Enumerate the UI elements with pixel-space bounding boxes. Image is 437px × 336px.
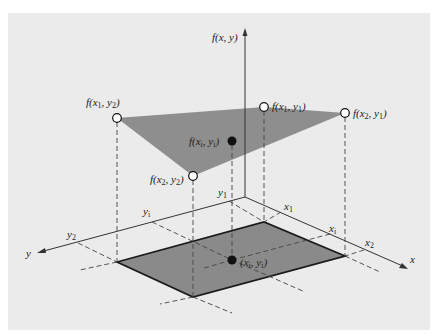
label-f-x1-y2: f(x1, y2) [86, 96, 120, 110]
point-f-xi-yi [228, 137, 237, 146]
label-f-x2-y2: f(x2, y2) [150, 173, 184, 187]
z-axis-label: f(x, y) [212, 31, 238, 44]
x-arrow-icon [399, 263, 408, 269]
point-f-x2-y2 [189, 172, 198, 181]
tick-xi: xi [328, 222, 337, 236]
tick-x2: x2 [364, 236, 374, 250]
z-arrow-icon [243, 28, 248, 36]
point-f-x2-y1 [341, 109, 350, 118]
tick-x1: x1 [283, 200, 293, 214]
y-axis-label: y [25, 247, 31, 259]
point-f-x1-y2 [113, 114, 122, 123]
label-f-x1-y1: f(x1, y1) [272, 100, 306, 114]
tick-yi: yi [142, 205, 151, 219]
label-xi-yi: (xi, yi) [240, 256, 267, 270]
point-xi-yi-base [228, 256, 237, 265]
x-axis-label: x [409, 253, 415, 265]
label-f-xi-yi: f(xi, yi) [189, 135, 219, 149]
bilinear-interpolation-diagram: f(x, y) y x f(x1, y2) f(x1, y1) f(x2, y1… [0, 0, 437, 336]
point-f-x1-y1 [260, 103, 269, 112]
y-arrow-icon [37, 248, 46, 253]
tick-y1: y1 [217, 186, 227, 200]
label-f-x2-y1: f(x2, y1) [353, 107, 387, 121]
tick-y2: y2 [66, 228, 76, 242]
